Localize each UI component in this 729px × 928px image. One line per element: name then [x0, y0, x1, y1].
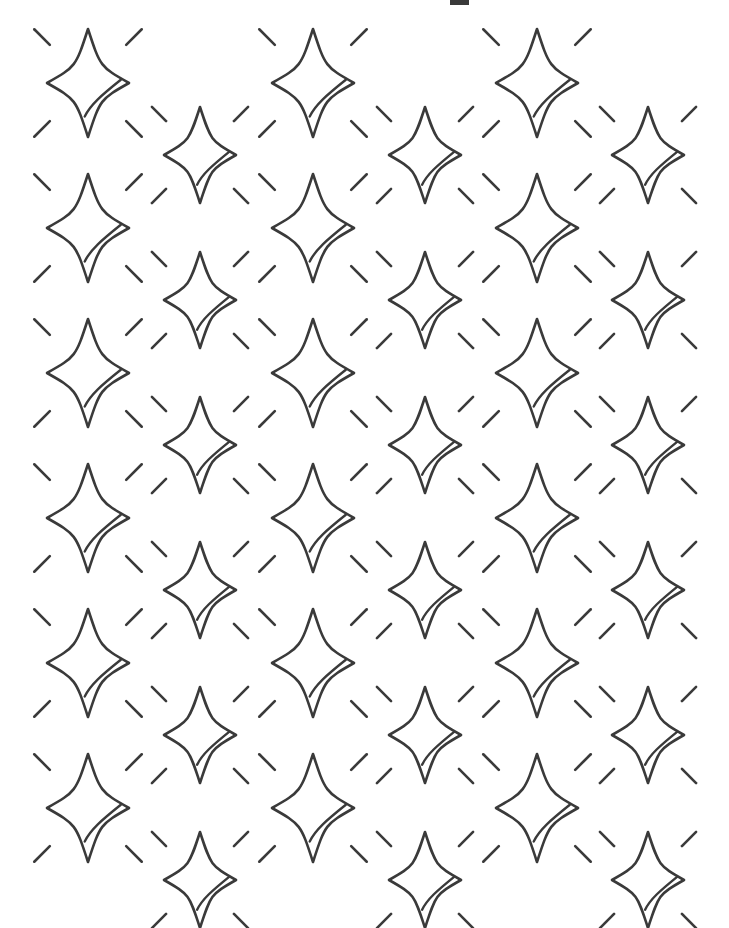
star-ray-northwest — [259, 609, 275, 625]
star-ray-northwest — [34, 29, 50, 45]
star-inner-swoosh — [197, 732, 229, 765]
star-ray-southwest — [377, 914, 391, 928]
star-ray-northwest — [259, 174, 275, 190]
sparkle-star — [483, 754, 590, 862]
star-ray-northeast — [459, 832, 473, 846]
sparkle-star — [259, 29, 366, 137]
star-inner-swoosh — [310, 225, 346, 262]
star-ray-northwest — [152, 687, 166, 701]
star-ray-southeast — [682, 189, 696, 203]
star-inner-swoosh — [422, 877, 454, 910]
star-ray-southeast — [459, 334, 473, 348]
star-ray-northeast — [682, 832, 696, 846]
sparkle-star — [152, 252, 248, 348]
star-ray-southwest — [34, 701, 50, 717]
sparkle-star — [377, 832, 473, 928]
star-ray-northeast — [575, 609, 591, 625]
star-ray-southwest — [377, 479, 391, 493]
star-ray-southwest — [152, 334, 166, 348]
star-ray-northeast — [126, 29, 142, 45]
star-ray-southeast — [126, 701, 142, 717]
star-ray-southwest — [483, 701, 499, 717]
star-inner-swoosh — [85, 660, 121, 697]
star-ray-northwest — [259, 319, 275, 335]
star-ray-northwest — [600, 542, 614, 556]
star-ray-southeast — [459, 189, 473, 203]
star-ray-southwest — [377, 334, 391, 348]
star-ray-northwest — [377, 252, 391, 266]
star-grid-primary-grid — [34, 29, 590, 862]
star-ray-northwest — [483, 174, 499, 190]
star-grid-offset-grid — [152, 107, 696, 928]
star-ray-northwest — [483, 609, 499, 625]
sparkle-star — [600, 252, 696, 348]
star-ray-northeast — [234, 832, 248, 846]
star-ray-northeast — [234, 397, 248, 411]
star-inner-swoosh — [310, 370, 346, 407]
star-ray-southwest — [483, 121, 499, 137]
star-ray-northwest — [377, 832, 391, 846]
star-ray-southeast — [682, 624, 696, 638]
star-ray-northwest — [152, 252, 166, 266]
sparkle-star — [34, 174, 141, 282]
star-ray-southeast — [234, 479, 248, 493]
star-inner-swoosh — [310, 805, 346, 842]
sparkle-star — [152, 107, 248, 203]
star-ray-southwest — [152, 624, 166, 638]
star-ray-northeast — [126, 609, 142, 625]
sparkle-star — [34, 609, 141, 717]
sparkle-star — [259, 754, 366, 862]
star-ray-northeast — [234, 107, 248, 121]
star-ray-southwest — [600, 334, 614, 348]
star-ray-southwest — [259, 846, 275, 862]
star-ray-northeast — [682, 542, 696, 556]
star-ray-northeast — [234, 542, 248, 556]
sparkle-star — [152, 687, 248, 783]
star-ray-northeast — [126, 754, 142, 770]
star-ray-northwest — [259, 29, 275, 45]
star-inner-swoosh — [197, 587, 229, 620]
star-inner-swoosh — [422, 297, 454, 330]
star-ray-northwest — [34, 609, 50, 625]
star-ray-northeast — [351, 319, 367, 335]
sparkle-star — [34, 754, 141, 862]
star-ray-southwest — [377, 624, 391, 638]
star-ray-northwest — [377, 687, 391, 701]
star-ray-southeast — [351, 411, 367, 427]
star-inner-swoosh — [310, 80, 346, 117]
star-ray-northeast — [459, 687, 473, 701]
star-ray-northwest — [377, 397, 391, 411]
star-ray-northwest — [600, 832, 614, 846]
star-ray-northwest — [483, 29, 499, 45]
star-inner-swoosh — [645, 297, 677, 330]
star-ray-northwest — [377, 107, 391, 121]
star-ray-northwest — [600, 397, 614, 411]
star-inner-swoosh — [645, 587, 677, 620]
star-inner-swoosh — [85, 225, 121, 262]
star-ray-northeast — [575, 464, 591, 480]
star-ray-southeast — [682, 479, 696, 493]
star-ray-southeast — [575, 556, 591, 572]
star-inner-swoosh — [310, 515, 346, 552]
star-ray-northwest — [152, 542, 166, 556]
sparkle-star — [483, 174, 590, 282]
star-ray-southwest — [34, 556, 50, 572]
sparkle-star — [152, 542, 248, 638]
sparkle-star — [259, 609, 366, 717]
star-ray-northwest — [34, 754, 50, 770]
star-inner-swoosh — [534, 515, 570, 552]
star-inner-swoosh — [534, 805, 570, 842]
star-ray-southwest — [600, 479, 614, 493]
star-ray-northeast — [351, 174, 367, 190]
star-ray-southeast — [459, 769, 473, 783]
star-ray-southeast — [234, 624, 248, 638]
star-inner-swoosh — [85, 515, 121, 552]
star-ray-northeast — [351, 754, 367, 770]
sparkle-star — [600, 107, 696, 203]
star-ray-southeast — [351, 266, 367, 282]
star-ray-southeast — [126, 121, 142, 137]
star-ray-northwest — [259, 464, 275, 480]
star-ray-southwest — [152, 914, 166, 928]
star-ray-southeast — [459, 479, 473, 493]
sparkle-star — [600, 542, 696, 638]
